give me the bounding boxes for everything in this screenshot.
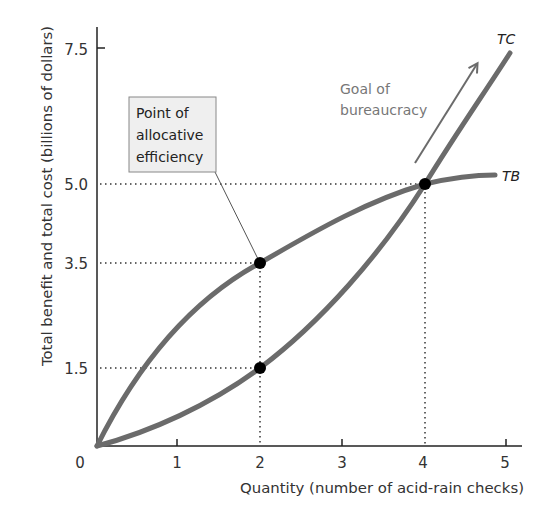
x-tick-label: 3 [337, 454, 347, 472]
x-tick-label: 0 [75, 454, 85, 472]
y-tick-label: 1.5 [64, 360, 88, 378]
x-tick-label: 5 [500, 454, 510, 472]
intersection-point [419, 178, 431, 190]
tb-curve [97, 175, 495, 446]
chart: 7.5 5.0 3.5 1.5 0 1 2 3 4 5 Quantity (nu… [0, 0, 553, 513]
x-tick-label: 2 [255, 454, 265, 472]
callout-line-2: allocative [136, 127, 203, 143]
allocative-efficiency-point-tc [254, 362, 266, 374]
x-tick-label: 4 [418, 454, 428, 472]
y-axis-title: Total benefit and total cost (billions o… [39, 26, 55, 367]
guide-lines [100, 184, 425, 446]
x-tick-label: 1 [172, 454, 182, 472]
goal-note-line-2: bureaucracy [340, 102, 427, 118]
callout-line-3: efficiency [136, 149, 203, 165]
allocative-efficiency-point-tb [254, 257, 266, 269]
goal-note-line-1: Goal of [340, 81, 391, 97]
y-tick-label: 5.0 [64, 176, 88, 194]
tb-label: TB [502, 168, 520, 184]
callout-line-1: Point of [136, 105, 190, 121]
x-axis-title: Quantity (number of acid-rain checks) [240, 480, 524, 496]
callout-leader-line [215, 172, 258, 259]
tc-label: TC [497, 31, 516, 47]
y-tick-label: 3.5 [64, 255, 88, 273]
y-tick-label: 7.5 [64, 41, 88, 59]
